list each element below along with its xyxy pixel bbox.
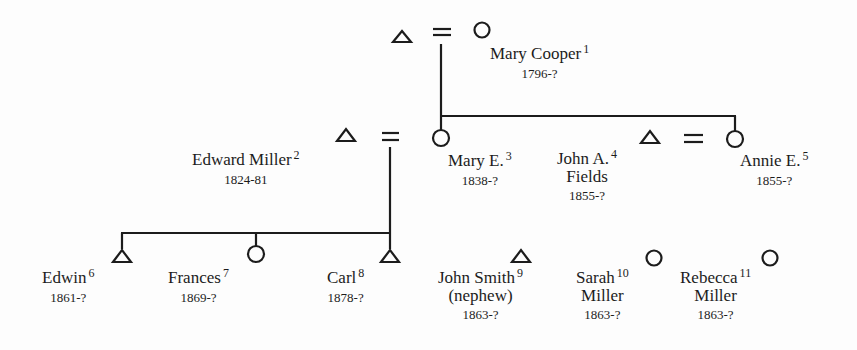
triangle-icon — [381, 250, 399, 262]
person-mary-e: Mary E.3 1838-? — [448, 147, 512, 189]
triangle-icon — [337, 129, 355, 141]
person-edward-miller: Edward Miller2 1824-81 — [192, 146, 300, 188]
circle-icon — [647, 251, 662, 266]
person-frances: Frances7 1869-? — [168, 264, 229, 306]
person-rebecca-miller: Rebecca11 Miller 1863-? — [680, 264, 751, 323]
person-edwin: Edwin6 1861-? — [42, 264, 94, 306]
triangle-icon — [113, 250, 131, 262]
circle-icon — [433, 130, 449, 146]
person-annie-e: Annie E.5 1855-? — [740, 147, 808, 189]
circle-icon — [727, 131, 743, 147]
triangle-icon — [393, 31, 411, 42]
person-sarah-miller: Sarah10 Miller 1863-? — [576, 264, 629, 323]
person-carl: Carl8 1878-? — [327, 264, 364, 306]
circle-icon — [248, 246, 264, 262]
person-john-smith: John Smith9 (nephew) 1863-? — [438, 264, 523, 323]
circle-icon — [475, 23, 490, 38]
triangle-icon — [641, 131, 659, 143]
person-mary-cooper: Mary Cooper1 1796-? — [490, 40, 589, 82]
triangle-icon — [512, 250, 530, 262]
circle-icon — [763, 251, 778, 266]
person-john-fields: John A.4 Fields 1855-? — [557, 145, 617, 204]
